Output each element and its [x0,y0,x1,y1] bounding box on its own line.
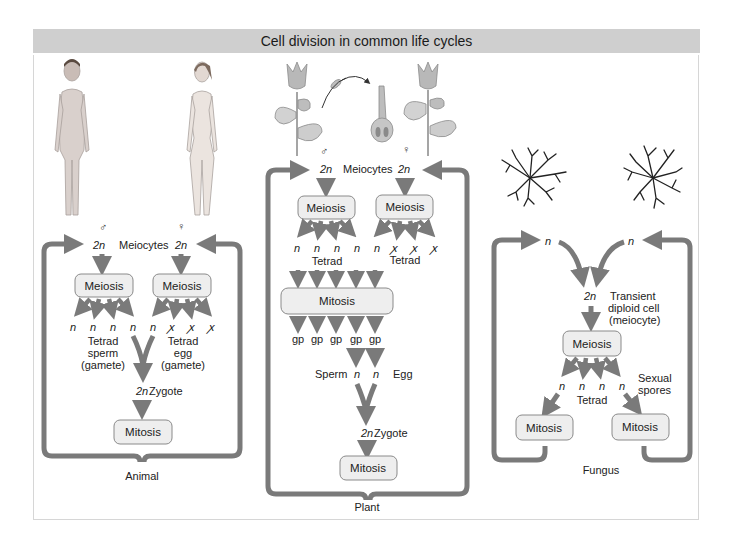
svg-text:Meiosis: Meiosis [163,280,202,292]
svg-text:n: n [130,321,136,333]
plant-fertilization-merge-arrow [357,384,375,416]
animal-section: ♂ ♀ 2n Meiocytes 2n Meiosis Meiosis [44,59,240,482]
fungus-mitosis-right-box: Mitosis [612,414,669,440]
plant-zygote-label: Zygote [374,427,408,439]
fungal-mycelium-right [624,146,682,208]
fungus-merge-arrow-left [559,242,582,278]
plant-egg-n: n [373,368,379,380]
plant-meiocytes-label: Meiocytes [343,163,393,175]
plant-meiosis-right-box: Meiosis [376,195,433,219]
plant-mitosis-wide-box: Mitosis [281,288,393,314]
plant-male-symbol: ♂ [320,145,328,157]
svg-text:n: n [599,380,605,392]
animal-tetrad-egg-2: egg [174,347,192,359]
fungus-caption: Fungus [583,464,620,476]
svg-text:n: n [334,242,340,254]
animal-meiocytes-label: Meiocytes [119,239,169,251]
svg-text:Mitosis: Mitosis [350,462,386,474]
fungus-tetrad-label: Tetrad [577,394,608,406]
animal-meiosis-left-box: Meiosis [75,274,133,297]
fungus-2n: 2n [583,290,596,302]
plant-gp-labels: gp gp gp gp gp [292,333,381,345]
animal-tetrad-sperm-3: (gamete) [81,359,125,371]
animal-meiosis-right-box: Meiosis [153,274,211,297]
fungus-n-right: n [628,235,634,247]
female-symbol: ♀ [177,220,185,232]
fungal-mycelium-left [502,148,566,206]
fungus-spore-arrow-right [625,394,636,408]
svg-text:n: n [70,321,76,333]
svg-text:n: n [150,321,156,333]
plant-sperm-n: n [354,368,360,380]
pistil-ovary [371,86,393,142]
fungus-sexual-spores-1: Sexual [638,372,672,384]
plant-section: ♂ ♀ 2n Meiocytes 2n Meiosis Meiosis [268,62,467,513]
svg-text:Mitosis: Mitosis [125,426,161,438]
plant-zygote-2n: 2n [360,427,373,439]
female-human-figure [187,62,217,215]
fungus-meiosis-fan-arrows [567,358,615,371]
svg-text:Meiosis: Meiosis [573,338,612,350]
fungus-section: n n 2n Transient diploid cell (meiocyte)… [494,146,690,476]
male-flower-plant [275,62,322,156]
svg-text:n: n [374,242,380,254]
plant-sperm-label: Sperm [315,368,347,380]
animal-mitosis-box: Mitosis [114,420,172,444]
svg-text:n: n [619,380,625,392]
svg-text:ꭗ: ꭗ [205,321,215,334]
animal-tetrad-egg-3: (gamete) [161,359,205,371]
svg-text:gp: gp [330,333,342,345]
svg-text:ꭗ: ꭗ [185,321,195,334]
male-human-figure [55,59,89,215]
svg-text:Meiosis: Meiosis [307,202,346,214]
fungus-merge-arrow-right [598,242,624,278]
animal-tetrad-egg-1: Tetrad [168,335,199,347]
animal-fertilization-merge-arrow [133,336,153,373]
fungus-sexual-spores-2: spores [638,384,672,396]
fungus-n-left: n [545,235,551,247]
svg-text:n: n [314,242,320,254]
animal-2n-right: 2n [174,239,187,251]
fungus-transient-1: Transient [610,290,655,302]
plant-2n-right: 2n [397,163,410,175]
svg-text:n: n [90,321,96,333]
life-cycle-diagram: ♂ ♀ 2n Meiocytes 2n Meiosis Meiosis [0,0,731,551]
animal-zygote-label: Zygote [149,385,183,397]
plant-gametophyte-arrows [298,316,375,325]
svg-text:Meiosis: Meiosis [386,201,425,213]
animal-tetrad-n-labels: n n n n n ꭗ ꭗ ꭗ [70,321,215,334]
animal-2n-left: 2n [92,239,105,251]
svg-text:gp: gp [311,333,323,345]
fungus-meiosis-box: Meiosis [563,331,621,356]
svg-text:gp: gp [369,333,381,345]
plant-meiosis-fan-arrows [303,221,429,232]
svg-text:Meiosis: Meiosis [85,280,124,292]
svg-text:n: n [579,380,585,392]
svg-text:n: n [559,380,565,392]
plant-to-mitosis-arrows [298,270,375,280]
fungus-transient-2: diploid cell [608,302,659,314]
pollen-transfer-arrow [322,76,368,108]
fungus-spore-arrow-left [547,394,558,410]
svg-text:n: n [110,321,116,333]
fungus-transient-3: (meiocyte) [609,314,660,326]
plant-tetrad-right-label: Tetrad [390,254,421,266]
female-flower-plant [404,62,456,156]
plant-female-symbol: ♀ [402,143,410,155]
animal-meiosis-left-fan-arrows [80,299,206,311]
svg-text:Mitosis: Mitosis [526,422,562,434]
animal-tetrad-sperm-1: Tetrad [88,335,119,347]
svg-text:ꭗ: ꭗ [165,321,175,334]
svg-text:gp: gp [292,333,304,345]
animal-tetrad-sperm-2: sperm [88,347,119,359]
animal-zygote-2n: 2n [135,385,148,397]
svg-text:n: n [294,242,300,254]
plant-egg-label: Egg [393,368,413,380]
fungus-tetrad-n-labels: n n n n [559,380,625,392]
svg-text:Mitosis: Mitosis [319,295,355,307]
plant-meiosis-left-box: Meiosis [298,196,355,219]
plant-caption: Plant [354,501,379,513]
svg-text:Mitosis: Mitosis [622,421,658,433]
plant-tetrad-left-label: Tetrad [312,255,343,267]
plant-mitosis-box: Mitosis [340,456,397,480]
